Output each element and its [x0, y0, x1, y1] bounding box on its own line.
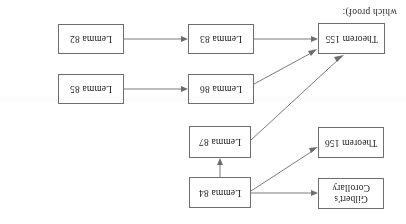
page-caption: which proof):: [342, 6, 397, 17]
edge-lemma82-to-lemma83: [124, 36, 188, 42]
edge-lemma86-to-theorem155: [254, 49, 317, 84]
node-lemma-82[interactable]: Lemma 82: [58, 24, 124, 54]
rotated-page-content: Gilbert's Corollary Lemma 84 Theorem 156…: [0, 0, 406, 224]
scanned-page: Gilbert's Corollary Lemma 84 Theorem 156…: [0, 0, 406, 224]
edge-lemma84-to-gilberts-corollary: [251, 190, 318, 196]
node-gilberts-corollary[interactable]: Gilbert's Corollary: [318, 178, 384, 209]
edge-lemma85-to-lemma86: [124, 86, 188, 92]
node-lemma-84[interactable]: Lemma 84: [189, 177, 251, 208]
edge-lemma84-to-theorem156: [251, 147, 318, 191]
node-lemma-83[interactable]: Lemma 83: [188, 24, 254, 54]
node-theorem-155[interactable]: Theorem 155: [318, 23, 385, 54]
node-lemma-87[interactable]: Lemma 87: [189, 126, 251, 158]
edge-lemma84-to-lemma87: [217, 158, 223, 177]
node-lemma-85[interactable]: Lemma 85: [58, 74, 124, 104]
node-lemma-86[interactable]: Lemma 86: [188, 74, 254, 104]
edge-lemma83-to-theorem155: [254, 36, 318, 42]
node-theorem-156[interactable]: Theorem 156: [318, 127, 384, 158]
